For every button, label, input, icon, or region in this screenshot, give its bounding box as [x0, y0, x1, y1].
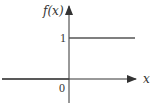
- step-function-plot: f(x) x 1 0: [0, 0, 158, 109]
- origin-label: 0: [59, 81, 65, 95]
- y-axis-label: f(x): [42, 4, 64, 18]
- y-tick-1: 1: [60, 31, 66, 45]
- x-axis-label: x: [143, 72, 150, 86]
